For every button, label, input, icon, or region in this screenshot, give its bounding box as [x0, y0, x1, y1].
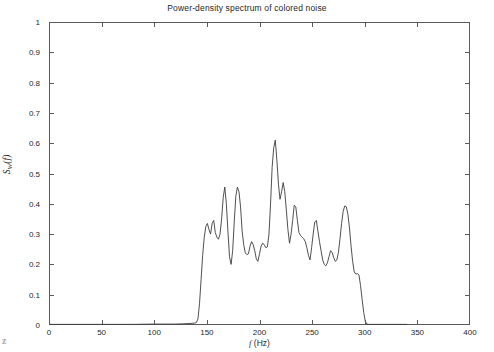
y-tickmark: [465, 83, 469, 84]
y-tickmark: [50, 83, 54, 84]
x-tick-label: 100: [134, 328, 174, 337]
y-tickmark: [50, 264, 54, 265]
x-tickmark: [365, 320, 366, 324]
x-tickmark: [417, 320, 418, 324]
x-tickmark: [102, 23, 103, 27]
x-tick-label: 200: [240, 328, 280, 337]
plot-area: [49, 22, 470, 325]
x-tick-label: 250: [292, 328, 332, 337]
x-axis-label-unit: (Hz): [251, 338, 269, 348]
y-tickmark: [50, 295, 54, 296]
x-tick-label: 400: [450, 328, 490, 337]
x-tickmark: [260, 23, 261, 27]
y-tickmark: [465, 174, 469, 175]
y-tickmark: [465, 204, 469, 205]
x-tick-label: 300: [345, 328, 385, 337]
x-tickmark: [102, 320, 103, 324]
y-axis-label-symbol: S: [2, 169, 12, 174]
x-tickmark: [312, 23, 313, 27]
x-tick-label: 50: [82, 328, 122, 337]
x-tick-label: 0: [29, 328, 69, 337]
data-series-line: [49, 22, 470, 325]
x-tickmark: [207, 23, 208, 27]
y-tick-label: 1: [0, 18, 40, 27]
y-axis-label: SW(f): [2, 134, 15, 194]
page-title: Power-density spectrum of colored noise: [0, 3, 494, 13]
y-axis-label-subscript: W: [6, 164, 14, 170]
x-axis-label: f (Hz): [49, 338, 470, 348]
x-tick-label: 350: [397, 328, 437, 337]
y-tickmark: [50, 234, 54, 235]
y-tick-label: 0.7: [0, 108, 40, 117]
y-tickmark: [465, 52, 469, 53]
y-tickmark: [50, 52, 54, 53]
figure-canvas: Power-density spectrum of colored noise …: [0, 0, 494, 352]
x-tickmark: [365, 23, 366, 27]
x-tickmark: [207, 320, 208, 324]
y-tickmark: [465, 264, 469, 265]
y-tickmark: [465, 113, 469, 114]
scan-artifact-mark: z: [2, 335, 6, 346]
y-tick-label: 0.2: [0, 260, 40, 269]
y-tick-label: 0.8: [0, 78, 40, 87]
y-tick-label: 0.1: [0, 290, 40, 299]
x-tickmark: [260, 320, 261, 324]
y-tickmark: [50, 174, 54, 175]
y-tickmark: [50, 143, 54, 144]
y-tick-label: 0.9: [0, 48, 40, 57]
y-tick-label: 0.4: [0, 199, 40, 208]
x-tickmark: [312, 320, 313, 324]
y-tickmark: [50, 113, 54, 114]
x-tickmark: [154, 23, 155, 27]
x-tick-label: 150: [187, 328, 227, 337]
y-tick-label: 0.3: [0, 230, 40, 239]
y-tickmark: [465, 234, 469, 235]
y-tickmark: [465, 143, 469, 144]
y-tickmark: [50, 204, 54, 205]
x-tickmark: [154, 320, 155, 324]
y-tickmark: [465, 295, 469, 296]
y-axis-label-arg: (f): [2, 155, 12, 164]
x-tickmark: [417, 23, 418, 27]
